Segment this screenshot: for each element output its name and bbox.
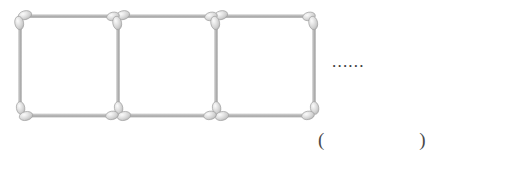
bottom-stick-3 <box>214 110 314 121</box>
vertical-stick-3 <box>210 16 222 115</box>
top-stick-1 <box>17 9 118 21</box>
answer-blank-parentheses[interactable]: ( ) <box>318 130 426 149</box>
top-stick-3 <box>213 9 314 21</box>
vertical-stick-4 <box>308 16 320 115</box>
matchstick-figure <box>0 0 509 170</box>
page-root: ...... ( ) <box>0 0 509 170</box>
vertical-stick-1 <box>14 16 26 115</box>
bottom-stick-1 <box>18 110 118 121</box>
top-stick-2 <box>115 9 216 21</box>
sequence-continuation-ellipsis: ...... <box>332 53 365 70</box>
bottom-stick-2 <box>116 110 216 121</box>
vertical-stick-2 <box>112 16 124 115</box>
